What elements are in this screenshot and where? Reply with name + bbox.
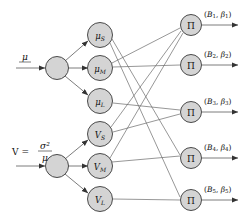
edge-node-mu-m-to-node-pi-2 [113,65,180,67]
input-label-v-denominator: μ [42,153,48,163]
edge-node-v-s-to-node-pi-3 [113,114,180,132]
hidden-to-output-edges [110,28,183,200]
input-label-mu: μ [22,52,28,62]
output-node-pi-4-symbol: Π [187,154,195,164]
edge-input-v-to-node-v-s [65,140,88,159]
input-to-hidden-edges [65,41,88,193]
output-labels: (B1, β1) (B2, β2) (B3, β3) (B4, β4) (B5,… [204,10,232,194]
output-nodes: Π Π Π Π Π [181,15,202,211]
input-nodes [46,57,69,178]
edge-node-v-m-to-node-pi-1 [110,33,183,158]
input-node-mu[interactable] [46,57,69,80]
edge-input-mu-to-node-mu-s [65,41,88,61]
output-node-pi-1-symbol: Π [187,21,195,31]
output-label-2: (B2, β2) [204,50,232,59]
output-label-1: (B1, β1) [204,10,232,19]
input-label-v-main: V= [11,147,29,157]
output-node-pi-5-symbol: Π [187,196,195,206]
edge-node-v-m-to-node-pi-4 [112,156,180,162]
hidden-nodes: μS μM μL VS VM VL [88,23,113,212]
edge-node-v-l-to-node-pi-5 [113,199,180,200]
edge-node-mu-m-to-node-pi-1 [112,28,180,63]
edge-input-mu-to-node-mu-l [65,76,88,95]
output-node-pi-2-symbol: Π [187,61,195,71]
output-node-pi-3-symbol: Π [187,108,195,118]
network-diagram: μS μM μL VS VM VL Π Π Π Π Π (B1, β1) [0,0,249,224]
input-node-v[interactable] [46,155,69,178]
output-label-3: (B3, β3) [204,97,232,106]
edge-input-v-to-node-v-l [65,174,88,193]
input-label-v-numerator: σ² [40,141,50,151]
output-label-4: (B4, β4) [204,143,232,152]
output-label-5: (B5, β5) [204,185,232,194]
edge-node-mu-l-to-node-pi-3 [113,103,180,110]
